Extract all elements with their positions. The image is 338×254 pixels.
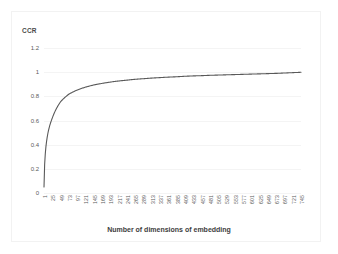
x-axis-tick-label: 97	[75, 195, 81, 201]
gridline	[44, 193, 301, 194]
x-axis-tick-label: 49	[59, 195, 65, 201]
x-axis-tick-label: 313	[150, 195, 156, 204]
x-axis-tick-label: 505	[216, 195, 222, 204]
x-axis-tick-label: 577	[241, 195, 247, 204]
ccr-curve-path	[44, 72, 301, 187]
x-axis-tick-label: 25	[50, 195, 56, 201]
x-axis-tick-label: 361	[166, 195, 172, 204]
x-axis-tick-label: 721	[291, 195, 297, 204]
chart-plot-wrapper: CCR 125497397121145169193217241265289313…	[0, 0, 338, 254]
x-axis-tick-label: 241	[125, 195, 131, 204]
x-axis-tick-label: 169	[100, 195, 106, 204]
y-axis-tick-label: 0.4	[0, 142, 39, 148]
y-axis-tick-label: 1	[0, 69, 39, 75]
x-axis-ticks: 1254973971211451691932172412652893133373…	[44, 195, 301, 225]
y-axis-tick-label: 0.2	[0, 166, 39, 172]
x-axis-tick-label: 649	[266, 195, 272, 204]
x-axis-tick-label: 265	[133, 195, 139, 204]
x-axis-tick-label: 385	[175, 195, 181, 204]
x-axis-tick-label: 553	[233, 195, 239, 204]
y-axis-tick-label: 0.8	[0, 93, 39, 99]
x-axis-tick-label: 337	[158, 195, 164, 204]
x-axis-tick-label: 697	[282, 195, 288, 204]
x-axis-tick-label: 409	[183, 195, 189, 204]
ccr-curve	[44, 48, 301, 193]
y-axis-title: CCR	[22, 27, 37, 34]
x-axis-tick-label: 217	[117, 195, 123, 204]
y-axis-tick-label: 0.6	[0, 118, 39, 124]
x-axis-tick-label: 145	[92, 195, 98, 204]
x-axis-tick-label: 289	[141, 195, 147, 204]
x-axis-tick-label: 1	[42, 195, 48, 198]
x-axis-tick-label: 529	[224, 195, 230, 204]
y-axis-tick-label: 0	[0, 190, 39, 196]
x-axis-tick-label: 601	[249, 195, 255, 204]
x-axis-tick-label: 73	[67, 195, 73, 201]
x-axis-tick-label: 193	[108, 195, 114, 204]
x-axis-tick-label: 481	[208, 195, 214, 204]
x-axis-tick-label: 673	[274, 195, 280, 204]
x-axis-tick-label: 433	[191, 195, 197, 204]
x-axis-tick-label: 121	[83, 195, 89, 204]
x-axis-title: Number of dimensions of embedding	[0, 226, 338, 233]
x-axis-tick-label: 745	[299, 195, 305, 204]
y-axis-tick-label: 1.2	[0, 45, 39, 51]
x-axis-tick-label: 457	[200, 195, 206, 204]
x-axis-tick-label: 625	[258, 195, 264, 204]
